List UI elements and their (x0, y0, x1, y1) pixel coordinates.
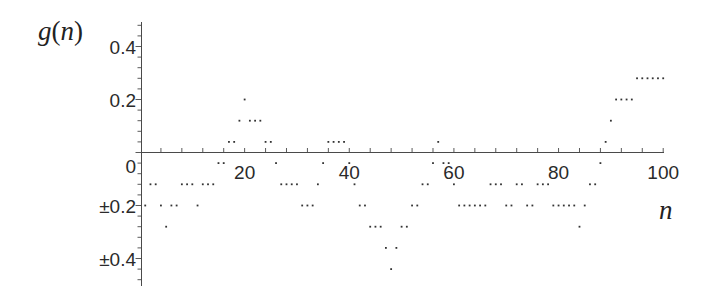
data-point (369, 226, 371, 228)
data-point (552, 205, 554, 207)
data-point (558, 205, 560, 207)
data-point (542, 183, 544, 185)
y-tick-label: ±0.2 (99, 196, 136, 217)
data-point (579, 226, 581, 228)
y-title-n: n (61, 16, 75, 46)
data-point (584, 205, 586, 207)
data-points (144, 77, 664, 270)
data-point (615, 99, 617, 101)
x-axis-title: n (659, 195, 673, 225)
data-point (218, 162, 220, 164)
data-point (317, 183, 319, 185)
data-point (401, 226, 403, 228)
x-axis-ticks (161, 148, 663, 153)
data-point (526, 205, 528, 207)
data-point (647, 77, 649, 79)
x-tick-label: 80 (548, 162, 569, 183)
y-tick-label: ±0.4 (99, 249, 136, 270)
data-point (170, 205, 172, 207)
data-point (395, 247, 397, 249)
y-tick-label: 0 (125, 156, 136, 177)
data-point (443, 162, 445, 164)
data-point (568, 205, 570, 207)
data-point (176, 205, 178, 207)
x-tick-label: 100 (647, 162, 679, 183)
data-point (249, 120, 251, 122)
data-point (380, 226, 382, 228)
data-point (364, 205, 366, 207)
data-point (375, 226, 377, 228)
y-title-g: g (38, 16, 52, 46)
data-point (233, 141, 235, 143)
data-point (259, 120, 261, 122)
data-point (448, 162, 450, 164)
data-point (474, 205, 476, 207)
scatter-chart: 0.40.20±0.2±0.4 20406080100 g(n) n (0, 0, 709, 301)
data-point (223, 162, 225, 164)
data-point (469, 205, 471, 207)
data-point (662, 77, 664, 79)
data-point (511, 205, 513, 207)
y-tick-labels: 0.40.20±0.2±0.4 (99, 37, 136, 270)
y-tick-label: 0.4 (110, 37, 137, 58)
data-point (620, 99, 622, 101)
data-point (202, 183, 204, 185)
data-point (600, 162, 602, 164)
data-point (589, 183, 591, 185)
data-point (207, 183, 209, 185)
data-point (505, 205, 507, 207)
data-point (275, 162, 277, 164)
x-tick-label: 20 (234, 162, 255, 183)
data-point (479, 205, 481, 207)
data-point (322, 162, 324, 164)
data-point (354, 183, 356, 185)
data-point (160, 205, 162, 207)
y-axis-ticks (136, 25, 142, 279)
data-point (537, 183, 539, 185)
data-point (244, 99, 246, 101)
data-point (631, 99, 633, 101)
data-point (500, 183, 502, 185)
x-tick-labels: 20406080100 (234, 162, 679, 183)
data-point (437, 141, 439, 143)
data-point (416, 205, 418, 207)
data-point (463, 205, 465, 207)
data-point (563, 205, 565, 207)
data-point (385, 247, 387, 249)
data-point (422, 183, 424, 185)
data-point (307, 205, 309, 207)
data-point (286, 183, 288, 185)
data-point (312, 205, 314, 207)
data-point (453, 183, 455, 185)
data-point (254, 120, 256, 122)
data-point (532, 205, 534, 207)
data-point (270, 141, 272, 143)
x-tick-label: 60 (443, 162, 464, 183)
data-point (348, 162, 350, 164)
data-point (333, 141, 335, 143)
y-title-close-paren: ) (74, 16, 83, 46)
data-point (186, 183, 188, 185)
data-point (239, 120, 241, 122)
y-axis-title: g(n) (38, 16, 83, 46)
data-point (155, 183, 157, 185)
data-point (610, 120, 612, 122)
data-point (626, 99, 628, 101)
data-point (296, 183, 298, 185)
data-point (605, 141, 607, 143)
data-point (359, 205, 361, 207)
data-point (484, 205, 486, 207)
data-point (641, 77, 643, 79)
data-point (495, 183, 497, 185)
data-point (327, 141, 329, 143)
data-point (280, 183, 282, 185)
data-point (265, 141, 267, 143)
data-point (490, 183, 492, 185)
y-tick-label: 0.2 (110, 90, 136, 111)
data-point (657, 77, 659, 79)
data-point (573, 205, 575, 207)
data-point (411, 205, 413, 207)
data-point (343, 141, 345, 143)
data-point (594, 183, 596, 185)
data-point (165, 226, 167, 228)
